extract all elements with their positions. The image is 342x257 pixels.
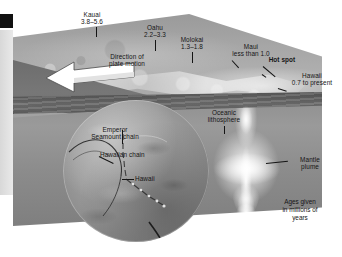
figure-caption: Ages given in millions of years — [264, 198, 336, 222]
label-emperor-line1: Emperor — [102, 126, 127, 133]
label-kauai-name: Kauai — [84, 11, 101, 18]
label-molokai-name: Molokai — [181, 36, 204, 43]
label-molokai-age: 1.3–1.8 — [181, 43, 203, 50]
label-lithosphere-line1: Oceanic — [212, 109, 236, 116]
page-margin-black-mark — [0, 14, 13, 28]
leader-molokai — [192, 52, 193, 63]
label-hawaii-age: 0.7 to present — [292, 79, 332, 86]
caption-line2: in millions of — [282, 206, 317, 213]
label-mantle-plume-line2: plume — [301, 163, 319, 170]
label-hawaiian-chain: Hawaiian chain — [100, 151, 162, 158]
label-plate-motion-line1: Direction of — [110, 53, 144, 60]
label-mantle-plume-line1: Mantle — [300, 156, 320, 163]
label-globe-hawaii: Hawaii — [135, 175, 169, 182]
globe-trench-arcs — [63, 100, 209, 242]
label-hot-spot: Hot spot — [262, 56, 302, 63]
leader-oahu — [155, 40, 156, 51]
label-hawaii-island: Hawaii 0.7 to present — [283, 72, 341, 87]
label-plate-motion: Direction of plate motion — [94, 53, 160, 68]
label-emperor-seamount-chain: Emperor Seamount chain — [84, 126, 146, 141]
leader-emperor-chain — [122, 130, 123, 144]
inset-globe — [63, 100, 209, 242]
leader-oceanic-lithosphere — [224, 126, 225, 134]
mantle-plume-source-bulb — [232, 200, 260, 224]
label-kauai-age: 3.8–5.6 — [81, 18, 103, 25]
label-oahu-name: Oahu — [147, 24, 163, 31]
label-hawaii-name: Hawaii — [302, 72, 322, 79]
label-maui-name: Maui — [244, 43, 258, 50]
leader-kauai — [96, 27, 97, 37]
leader-globe-hawaii — [122, 179, 134, 180]
caption-line3: years — [292, 214, 308, 221]
figure-canvas: Kauai 3.8–5.6 Oahu 2.2–3.3 Molokai 1.3–1… — [0, 0, 342, 257]
label-lithosphere-line2: lithosphere — [208, 116, 240, 123]
label-emperor-line2: Seamount chain — [91, 133, 139, 140]
label-mantle-plume: Mantle plume — [288, 156, 332, 171]
label-oahu-age: 2.2–3.3 — [144, 31, 166, 38]
label-kauai: Kauai 3.8–5.6 — [68, 11, 116, 26]
caption-line1: Ages given — [284, 198, 316, 205]
page-margin-gray-bar — [0, 30, 13, 195]
label-molokai: Molokai 1.3–1.8 — [166, 36, 218, 51]
label-oceanic-lithosphere: Oceanic lithosphere — [192, 109, 256, 124]
label-plate-motion-line2: plate motion — [109, 60, 145, 67]
